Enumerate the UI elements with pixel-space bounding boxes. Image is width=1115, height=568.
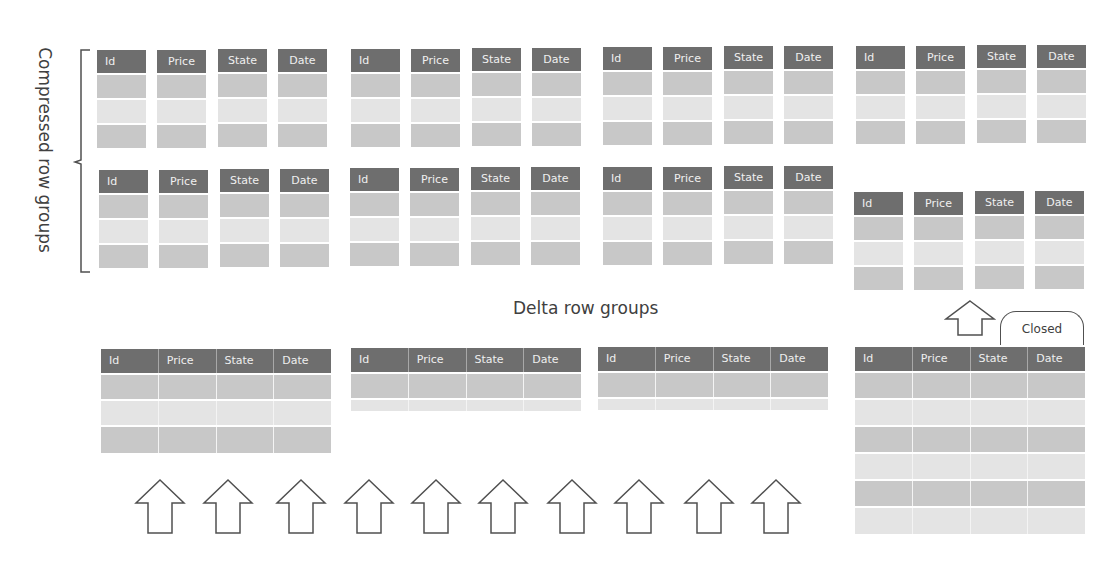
column-segment: State [724,166,773,264]
table-cell [855,481,913,506]
column-cell [603,217,652,240]
table-cell [855,400,913,425]
column-header: Price [656,347,714,371]
column-cell [97,125,146,148]
column-header: Date [1037,45,1086,68]
column-segment: Date [531,167,580,265]
column-header: Price [914,192,963,215]
column-cell [350,218,399,241]
table-cell [159,375,217,399]
column-cell [663,242,712,265]
column-cell [97,75,146,98]
column-cell [218,99,267,122]
column-header: State [217,349,275,373]
column-cell [410,218,459,241]
column-cell [410,193,459,216]
table-cell [159,401,217,425]
column-segment: Date [1035,191,1084,289]
table-row [855,481,1085,506]
column-cell [471,192,520,215]
table-cell [656,399,714,410]
column-cell [724,121,773,144]
column-segment: Price [411,49,460,147]
column-header: Price [159,170,208,193]
table-cell [656,373,714,397]
insert-up-arrow-icon [343,478,395,536]
table-cell [274,401,331,425]
table-cell [101,375,159,399]
column-cell [280,194,329,217]
column-header: Price [410,168,459,191]
table-row [855,508,1085,534]
delta-row-group: IdPriceStateDate [351,348,581,411]
column-header: State [975,191,1024,214]
table-cell [971,454,1029,479]
column-header: Id [350,168,399,191]
closed-tab: Closed [1000,311,1084,345]
column-cell [784,216,833,239]
insert-up-arrow-icon [275,478,327,536]
column-cell [977,70,1026,93]
column-header: Date [278,49,327,72]
column-cell [411,124,460,147]
column-cell [856,96,905,119]
column-cell [854,242,903,265]
column-segment: State [472,48,521,146]
column-cell [724,216,773,239]
header-row: IdPriceStateDate [351,348,581,372]
column-header: State [471,167,520,190]
table-cell [1028,481,1085,506]
table-cell [855,508,913,534]
column-header: State [977,45,1026,68]
column-header: Date [1035,191,1084,214]
column-cell [351,99,400,122]
column-cell [1037,95,1086,118]
column-header: Id [101,349,159,373]
column-segment: Date [784,166,833,264]
column-header: Id [97,50,146,73]
column-header: Price [159,349,217,373]
column-cell [351,124,400,147]
table-cell [1028,508,1085,534]
column-cell [220,194,269,217]
column-header: Date [531,167,580,190]
table-row [855,427,1085,452]
column-segment: State [975,191,1024,289]
column-segment: State [724,46,773,144]
delta-row-group: IdPriceStateDate [598,347,828,410]
column-cell [531,217,580,240]
column-cell [159,220,208,243]
column-cell [975,266,1024,289]
column-cell [532,123,581,146]
column-cell [724,191,773,214]
column-cell [914,242,963,265]
column-segment: Date [280,169,329,267]
table-cell [913,481,971,506]
table-cell [913,400,971,425]
column-cell [663,122,712,145]
insert-up-arrow-icon [683,478,735,536]
table-cell [913,427,971,452]
column-segment: State [220,169,269,267]
column-cell [97,100,146,123]
column-header: Id [854,192,903,215]
column-header: Id [99,170,148,193]
column-cell [914,267,963,290]
column-segment: State [471,167,520,265]
column-cell [218,124,267,147]
column-cell [1035,216,1084,239]
table-cell [217,375,275,399]
column-cell [280,219,329,242]
column-segment: Price [159,170,208,268]
column-cell [975,241,1024,264]
header-row: IdPriceStateDate [101,349,331,373]
table-cell [598,399,656,410]
column-cell [784,121,833,144]
column-header: Price [663,47,712,70]
column-header: Date [1028,347,1085,371]
table-cell [714,373,772,397]
column-segment: Price [916,46,965,144]
column-cell [159,195,208,218]
column-segment: Id [99,170,148,268]
column-header: State [220,169,269,192]
